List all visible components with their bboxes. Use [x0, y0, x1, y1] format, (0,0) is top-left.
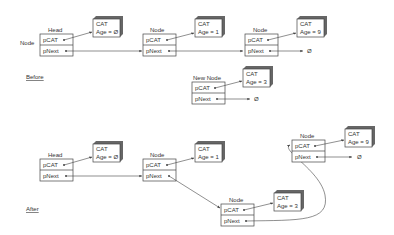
before-section: Node Head pCAT pNext CAT Age = Ø Node pC…	[20, 16, 327, 104]
cat-title: CAT	[300, 21, 312, 27]
pnext-field: pNext	[224, 218, 240, 224]
cat-age: Age = Ø	[96, 154, 119, 160]
pnext-field: pNext	[146, 173, 162, 179]
node-label: Node	[150, 27, 165, 33]
node-label: Head	[48, 27, 62, 33]
cat-age: Age = 1	[198, 154, 220, 160]
cat-age: Age = 1	[198, 29, 220, 35]
pcat-field: pCAT	[43, 162, 58, 168]
cat-age: Age = Ø	[96, 29, 119, 35]
after-cat-box-1: CAT Age = 1	[195, 141, 225, 162]
after-head-node: Head pCAT pNext	[40, 152, 73, 181]
node-label: Head	[48, 152, 62, 158]
pcat-field: pCAT	[146, 37, 161, 43]
after-cat-box-3: CAT Age = 9	[345, 126, 375, 147]
pcat-field: pCAT	[224, 207, 239, 213]
cat-title: CAT	[198, 21, 210, 27]
before-node-2: Node pCAT pNext	[245, 27, 278, 56]
pcat-field: pCAT	[248, 37, 263, 43]
pnext-field: pNext	[195, 96, 211, 102]
after-node-1: Node pCAT pNext	[143, 152, 176, 181]
linked-list-insertion-diagram: Node Head pCAT pNext CAT Age = Ø Node pC…	[0, 0, 394, 235]
pnext-field: pNext	[248, 48, 264, 54]
pnext-field: pNext	[43, 48, 59, 54]
after-node-2-inserted: Node pCAT pNext	[221, 197, 254, 226]
cat-title: CAT	[96, 146, 108, 152]
pnext-field: pNext	[146, 48, 162, 54]
cat-title: CAT	[198, 146, 210, 152]
after-label: After	[26, 206, 39, 212]
node-label: New Node	[193, 75, 222, 81]
before-cat-box-0: CAT Age = Ø	[93, 16, 123, 37]
pnext-field: pNext	[43, 173, 59, 179]
node-label: Node	[150, 152, 165, 158]
null-terminator: Ø	[254, 96, 259, 102]
null-terminator: Ø	[307, 48, 312, 54]
after-node-3: Node pCAT pNext	[292, 133, 325, 162]
after-cat-box-2: CAT Age = 3	[274, 190, 304, 211]
node-label: Node	[300, 133, 315, 139]
cat-age: Age = 3	[277, 203, 299, 209]
cat-age: Age = 9	[348, 139, 370, 145]
cat-title: CAT	[277, 195, 289, 201]
node-side-label: Node	[20, 40, 35, 46]
null-terminator: Ø	[357, 154, 362, 160]
before-new-node: New Node pCAT pNext	[192, 75, 225, 104]
before-cat-box-1: CAT Age = 1	[195, 16, 225, 37]
before-head-node: Head pCAT pNext	[40, 27, 73, 56]
before-label: Before	[26, 74, 44, 80]
cat-title: CAT	[348, 131, 360, 137]
before-node-1: Node pCAT pNext	[143, 27, 176, 56]
before-cat-box-2: CAT Age = 9	[297, 16, 327, 37]
pcat-field: pCAT	[295, 143, 310, 149]
node-label: Node	[253, 27, 268, 33]
after-cat-box-0: CAT Age = Ø	[93, 141, 123, 162]
pcat-field: pCAT	[43, 37, 58, 43]
cat-age: Age = 9	[300, 29, 322, 35]
before-new-cat-box: CAT Age = 3	[243, 66, 273, 87]
pnext-field: pNext	[295, 154, 311, 160]
cat-age: Age = 3	[246, 79, 268, 85]
after-section: Head pCAT pNext CAT Age = Ø Node pCAT pN…	[26, 126, 375, 226]
cat-title: CAT	[96, 21, 108, 27]
node-label: Node	[229, 197, 244, 203]
pcat-field: pCAT	[146, 162, 161, 168]
cat-title: CAT	[246, 71, 258, 77]
pcat-field: pCAT	[195, 85, 210, 91]
